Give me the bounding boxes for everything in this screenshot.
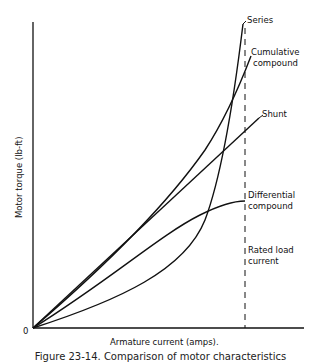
origin-label: 0	[23, 326, 28, 336]
shunt-label: Shunt	[262, 109, 287, 119]
y-axis-label: Motor torque (lb-ft)	[14, 137, 24, 219]
shunt-curve	[33, 118, 259, 328]
series-leader	[243, 21, 246, 24]
cumulative-compound-label-line2: compound	[253, 58, 298, 68]
x-axis-label: Armature current (amps).	[110, 337, 219, 347]
series-label: Series	[247, 15, 273, 25]
differential-compound-label-line1: Differential	[248, 190, 295, 200]
rated-load-label-line2: current	[248, 256, 279, 266]
series-curve	[33, 24, 243, 328]
cumulative-compound-curve	[33, 56, 251, 328]
cumulative-compound-label-line1: Cumulative	[251, 47, 300, 57]
differential-compound-label-line2: compound	[248, 201, 293, 211]
differential-compound-curve	[33, 201, 245, 328]
figure-caption: Figure 23-14. Comparison of motor charac…	[0, 351, 321, 362]
rated-load-label-line1: Rated load	[248, 245, 294, 255]
